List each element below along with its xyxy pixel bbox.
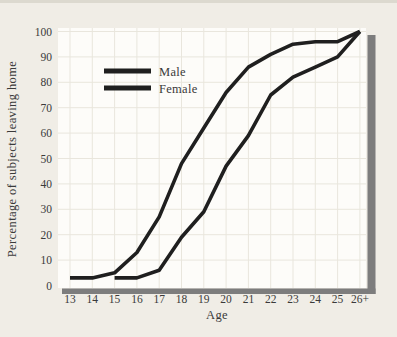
x-tick-label: 24 (310, 293, 322, 305)
y-tick-label: 70 (41, 102, 53, 114)
x-axis-title: Age (206, 308, 228, 322)
y-tick-label: 100 (35, 26, 53, 38)
y-tick-label: 40 (41, 178, 53, 190)
y-tick-label: 90 (41, 51, 53, 63)
y-tick-label: 60 (41, 127, 53, 139)
x-tick-label: 17 (153, 293, 165, 305)
figure: 0102030405060708090100131415161718192021… (0, 0, 397, 337)
x-tick-label: 18 (176, 293, 188, 305)
x-tick-label: 26+ (351, 293, 369, 305)
x-tick-label: 20 (220, 293, 232, 305)
x-tick-label: 16 (131, 293, 143, 305)
x-tick-label: 13 (64, 293, 76, 305)
y-tick-label: 80 (41, 76, 53, 88)
axis-shadow-right (368, 35, 376, 294)
x-tick-label: 14 (87, 293, 99, 305)
y-tick-label: 0 (46, 280, 52, 292)
x-tick-label: 21 (243, 293, 255, 305)
x-tick-label: 15 (109, 293, 121, 305)
x-tick-label: 25 (332, 293, 344, 305)
legend-male-label: Male (159, 65, 186, 79)
y-tick-label: 10 (41, 254, 53, 266)
y-tick-label: 30 (41, 203, 53, 215)
x-tick-label: 22 (265, 293, 277, 305)
y-axis-title: Percentage of subjects leaving home (5, 61, 19, 258)
x-tick-label: 19 (198, 293, 210, 305)
y-tick-label: 50 (41, 153, 53, 165)
legend-female-label: Female (159, 82, 198, 96)
x-tick-label: 23 (287, 293, 299, 305)
y-tick-label: 20 (41, 229, 53, 241)
line-chart: 0102030405060708090100131415161718192021… (0, 0, 397, 337)
